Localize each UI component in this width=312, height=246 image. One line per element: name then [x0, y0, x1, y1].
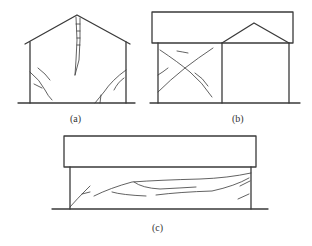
- flat-roof-c: [64, 136, 256, 167]
- panel-c: (c): [52, 136, 268, 234]
- panel-label-c: (c): [152, 222, 163, 234]
- flat-roof-b: [152, 12, 293, 43]
- panel-b: (b): [150, 12, 300, 125]
- panel-label-b: (b): [232, 113, 244, 125]
- right-corner-cracks-a: [95, 70, 126, 103]
- gable-roof-a: [25, 15, 130, 44]
- gable-roof-b: [222, 23, 289, 43]
- crack-pattern-figure: (a) (b): [0, 0, 312, 246]
- panel-a: (a): [18, 15, 135, 125]
- x-cracks-b: [158, 48, 213, 97]
- apex-crack-a: [75, 17, 80, 75]
- panel-label-a: (a): [70, 113, 81, 125]
- left-corner-cracks-a: [30, 68, 52, 100]
- horizontal-cracks-c: [70, 173, 251, 207]
